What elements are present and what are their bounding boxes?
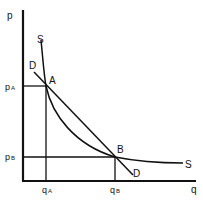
pA-label-main: p: [5, 82, 10, 92]
qB-label-main: q: [110, 185, 115, 195]
pB-label-sub: B: [11, 155, 15, 161]
demand-bottom-label: D: [133, 168, 140, 179]
point-A-label: A: [49, 75, 56, 86]
supply-top-label: S: [37, 34, 44, 45]
qA-label-sub: A: [48, 188, 52, 194]
qA-label-main: q: [42, 185, 47, 195]
qB-label-sub: B: [116, 188, 120, 194]
point-B-label: B: [117, 144, 124, 155]
supply-right-label: S: [185, 159, 192, 170]
pA-label-sub: A: [11, 85, 15, 91]
quantity-axis-label: q: [191, 184, 197, 195]
demand-top-label: D: [29, 60, 36, 71]
pB-label-main: p: [5, 152, 10, 162]
demand-curve: [34, 72, 133, 175]
price-axis-label: p: [7, 10, 13, 21]
supply-demand-diagram: p q S S D D A B p A p B q A q B: [0, 0, 203, 202]
